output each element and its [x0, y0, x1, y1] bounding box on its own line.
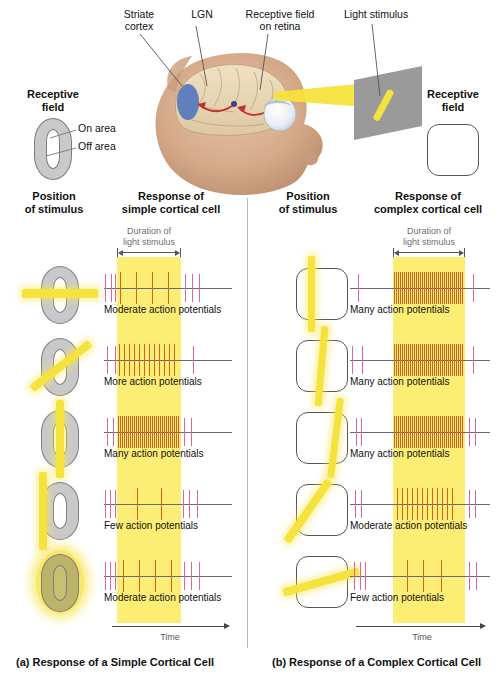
spike-inside: [462, 272, 463, 304]
complex-duration-arrow: [393, 248, 465, 257]
simple-response-header-line2: simple cortical cell: [104, 203, 238, 216]
response-result-label: Few action potentials: [350, 592, 500, 603]
spike-outside: [105, 490, 106, 518]
spike-inside: [176, 416, 177, 448]
response-result-label: Moderate action potentials: [104, 304, 242, 315]
spike-train: [104, 330, 232, 402]
spike-inside: [450, 344, 451, 376]
spike-inside: [452, 344, 453, 376]
spike-inside: [436, 344, 437, 376]
spike-train: [350, 546, 490, 618]
spike-inside: [174, 344, 175, 376]
spike-inside: [458, 344, 459, 376]
spike-inside: [406, 272, 407, 304]
spike-inside: [402, 272, 403, 304]
simple-time-arrow: [112, 622, 230, 630]
spike-inside: [402, 416, 403, 448]
spike-inside: [129, 344, 130, 376]
spike-inside: [394, 344, 395, 376]
complex-duration-line1: Duration of: [392, 226, 466, 237]
spike-inside: [452, 488, 453, 520]
simple-duration-arrow: [117, 248, 181, 257]
spike-inside: [132, 416, 133, 448]
panel-divider: [247, 198, 248, 648]
spike-outside: [360, 562, 361, 590]
spike-inside: [396, 272, 397, 304]
spike-inside: [456, 416, 457, 448]
spike-inside: [400, 416, 401, 448]
spike-inside: [136, 272, 137, 304]
spike-train: [104, 258, 232, 330]
stimulus-cell: [30, 330, 90, 400]
complex-panel-caption: (b) Response of a Complex Cortical Cell: [272, 656, 481, 669]
spike-outside: [469, 490, 470, 518]
stimulus-cell: [290, 474, 350, 544]
spike-inside: [432, 344, 433, 376]
spike-inside: [144, 344, 145, 376]
spike-inside: [120, 416, 121, 448]
spike-inside: [441, 560, 442, 592]
spike-inside: [422, 272, 423, 304]
spike-inside: [162, 416, 163, 448]
spike-inside: [412, 416, 413, 448]
spike-inside: [154, 416, 155, 448]
spike-inside: [136, 416, 137, 448]
receptive-field-complex: [290, 474, 350, 544]
spike-inside: [434, 272, 435, 304]
spike-outside: [192, 274, 193, 302]
response-result-label: Few action potentials: [104, 520, 242, 531]
spike-inside: [168, 272, 169, 304]
spike-inside: [454, 344, 455, 376]
receptive-field-simple: [30, 330, 90, 400]
spike-inside: [444, 416, 445, 448]
spike-outside: [476, 562, 477, 590]
spike-inside: [438, 344, 439, 376]
spike-inside: [434, 344, 435, 376]
legend-right-receptive-field-glyph: [427, 124, 479, 176]
spike-inside: [124, 344, 125, 376]
on-area-shape: [53, 493, 67, 529]
stimulus-cell: [30, 474, 90, 544]
spike-inside: [118, 416, 119, 448]
spike-inside: [134, 344, 135, 376]
spike-inside: [161, 488, 162, 520]
spike-inside: [460, 272, 461, 304]
spike-inside: [404, 272, 405, 304]
complex-position-header-line1: Position: [262, 190, 354, 203]
spike-inside: [434, 416, 435, 448]
spike-inside: [444, 344, 445, 376]
spike-inside: [144, 416, 145, 448]
spike-outside: [191, 418, 192, 446]
stimulus-cell: [30, 546, 90, 616]
spike-outside: [107, 346, 108, 374]
spike-inside: [423, 560, 424, 592]
spike-train: [104, 474, 232, 546]
spike-outside: [475, 418, 476, 446]
spike-inside: [148, 416, 149, 448]
spike-train: [104, 402, 232, 474]
spike-outside: [107, 418, 108, 446]
spike-inside: [442, 272, 443, 304]
spike-outside: [356, 418, 357, 446]
spike-inside: [422, 344, 423, 376]
spike-inside: [440, 344, 441, 376]
spike-inside: [420, 416, 421, 448]
complex-response-header-line1: Response of: [358, 190, 498, 203]
spike-outside: [475, 490, 476, 518]
spike-inside: [460, 416, 461, 448]
spike-inside: [137, 488, 138, 520]
spike-inside: [142, 416, 143, 448]
spike-inside: [400, 344, 401, 376]
spike-outside: [355, 490, 356, 518]
simple-duration-line1: Duration of: [112, 226, 186, 237]
spike-inside: [154, 344, 155, 376]
spike-inside: [123, 560, 124, 592]
simple-position-header: Position of stimulus: [8, 190, 100, 215]
spike-inside: [454, 416, 455, 448]
spike-outside: [197, 490, 198, 518]
spike-inside: [155, 560, 156, 592]
complex-time-label: Time: [392, 632, 452, 643]
spike-outside: [189, 490, 190, 518]
receptive-field-box: [296, 268, 348, 320]
spike-inside: [119, 344, 120, 376]
